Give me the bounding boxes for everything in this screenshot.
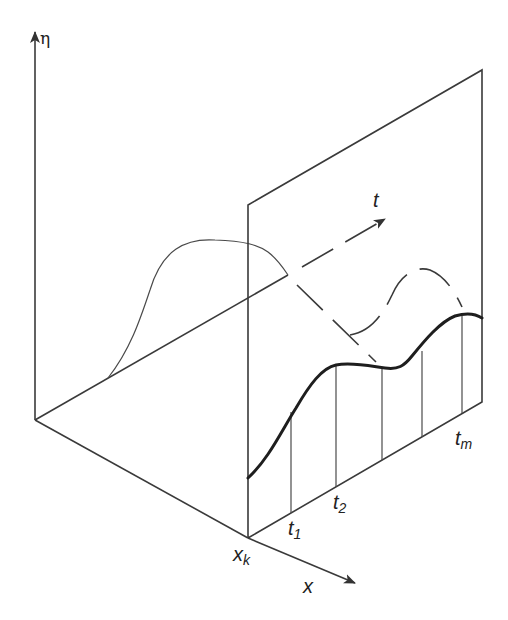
tm-label: tm [455, 428, 472, 451]
dashed-hidden-curve [350, 269, 462, 335]
t-axis-label: t [373, 190, 379, 210]
floor-front-edge [35, 420, 248, 538]
section-plane [248, 70, 482, 538]
t1-label: t1 [288, 518, 301, 541]
x-axis [248, 538, 355, 583]
diagram-canvas [0, 0, 508, 620]
section-curve [248, 314, 482, 478]
x-axis-label: x [303, 576, 313, 596]
sample-lines [291, 316, 462, 513]
xk-label: xk [233, 544, 250, 567]
dashed-projection-line [297, 285, 376, 362]
eta-axis-label: η [40, 30, 50, 47]
t2-label: t2 [333, 492, 346, 515]
t-axis [302, 219, 385, 267]
floor-back-edge [35, 275, 288, 420]
rear-curve [108, 240, 288, 378]
